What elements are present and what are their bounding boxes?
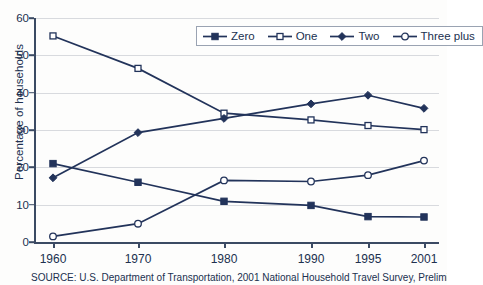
- series-layer: [34, 18, 439, 243]
- y-tick-label: 20: [16, 161, 29, 173]
- legend-item-one[interactable]: One: [267, 30, 318, 42]
- x-tick-label: 1960: [40, 252, 67, 266]
- y-tick-label: 10: [16, 199, 29, 211]
- source-note: SOURCE: U.S. Department of Transportatio…: [31, 272, 447, 283]
- y-tick-label: 50: [16, 49, 29, 61]
- x-tick-label: 1990: [298, 252, 325, 266]
- x-tick-label: 1995: [355, 252, 382, 266]
- y-tick-label: 30: [16, 124, 29, 136]
- legend-label: Three plus: [421, 30, 475, 42]
- legend-swatch-open-square-icon: [267, 31, 293, 42]
- series-three-plus: [50, 157, 428, 239]
- legend-swatch-filled-diamond-icon: [329, 31, 355, 42]
- legend-item-zero[interactable]: Zero: [202, 30, 255, 42]
- legend-label: One: [296, 30, 318, 42]
- x-tick-label: 2001: [411, 252, 438, 266]
- series-two: [49, 91, 428, 181]
- y-tick-label: 40: [16, 87, 29, 99]
- legend-item-two[interactable]: Two: [329, 30, 379, 42]
- chart-legend: ZeroOneTwoThree plus: [196, 26, 483, 46]
- series-zero: [50, 160, 427, 220]
- x-tick-label: 1980: [211, 252, 238, 266]
- legend-label: Zero: [231, 30, 255, 42]
- legend-item-three-plus[interactable]: Three plus: [392, 30, 475, 42]
- series-one: [50, 33, 427, 133]
- legend-label: Two: [358, 30, 379, 42]
- plot-area: 0102030405060 196019701980199019952001: [34, 18, 439, 242]
- y-tick-label: 0: [23, 236, 29, 248]
- y-tick-label: 60: [16, 12, 29, 24]
- legend-swatch-filled-square-icon: [202, 31, 228, 42]
- y-axis-title: Percentage of households: [13, 17, 25, 207]
- x-tick-label: 1970: [125, 252, 152, 266]
- legend-swatch-open-circle-icon: [392, 31, 418, 42]
